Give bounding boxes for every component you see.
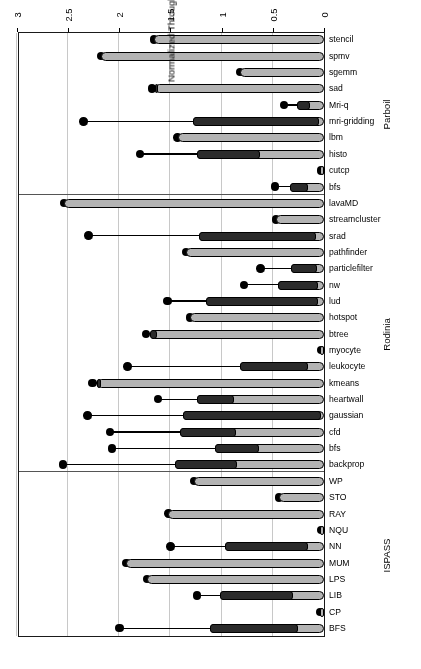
category-label-mum: MUM	[329, 556, 385, 572]
category-label-cp: CP	[329, 605, 385, 621]
axis-tick	[324, 28, 325, 32]
category-label-myocyte: myocyte	[329, 343, 385, 359]
bar-inner	[150, 330, 157, 339]
group-label-rodinia: Rodinia	[382, 305, 393, 365]
whisker-endpoint-dot	[154, 395, 163, 404]
category-label-streamcluster: streamcluster	[329, 213, 385, 229]
whisker-endpoint-dot	[79, 117, 88, 126]
axis-tick-label: 2	[115, 5, 125, 25]
bar-row	[19, 603, 324, 619]
category-label-lavamd: lavaMD	[329, 196, 385, 212]
bar-row	[19, 620, 324, 636]
bar-outer	[320, 166, 324, 175]
category-label-gaussian: gaussian	[329, 409, 385, 425]
category-label-stencil: stencil	[329, 33, 385, 49]
category-label-spmv: spmv	[329, 49, 385, 65]
bar-outer	[320, 526, 324, 535]
whisker-endpoint-dot	[106, 428, 115, 437]
axis-tick-label: 0	[320, 5, 330, 25]
axis-tick	[222, 28, 223, 32]
whisker-endpoint-dot	[136, 150, 145, 159]
bar-outer	[186, 248, 324, 257]
group-separator	[19, 194, 324, 195]
category-label-pathfinder: pathfinder	[329, 245, 385, 261]
category-label-sto: STO	[329, 491, 385, 507]
bar-row	[19, 473, 324, 489]
whisker-endpoint-dot	[83, 411, 92, 420]
bar-row	[19, 227, 324, 243]
bar-inner	[193, 117, 319, 126]
bar-row	[19, 325, 324, 341]
axis-tick	[119, 28, 120, 32]
whisker-endpoint-dot	[163, 297, 172, 306]
bar-outer	[97, 379, 324, 388]
bar-inner	[197, 395, 234, 404]
bar-inner	[215, 444, 259, 453]
bar-outer	[147, 575, 324, 584]
bar-row	[19, 571, 324, 587]
whisker-endpoint-dot	[142, 330, 151, 339]
bar-inner	[155, 84, 158, 93]
whisker-endpoint-dot	[271, 182, 280, 191]
category-label-lbm: lbm	[329, 131, 385, 147]
group-label-parboil: Parboil	[382, 84, 393, 144]
category-label-nqu: NQU	[329, 523, 385, 539]
category-label-bfs: BFS	[329, 621, 385, 637]
bar-outer	[154, 35, 324, 44]
bar-row	[19, 260, 324, 276]
whisker-endpoint-dot	[193, 591, 202, 600]
bar-row	[19, 129, 324, 145]
bar-outer	[320, 608, 324, 617]
bar-row	[19, 391, 324, 407]
bar-row	[19, 211, 324, 227]
bar-inner	[97, 379, 101, 388]
axis-tick-label: 2.5	[64, 5, 74, 25]
whisker-endpoint-dot	[88, 379, 97, 388]
bar-row	[19, 309, 324, 325]
axis-title: Normalized Throughput (Flits/cycle/node)	[166, 0, 177, 85]
bar-inner	[290, 183, 307, 192]
bar-outer	[127, 559, 325, 568]
bar-outer	[64, 199, 324, 208]
category-label-histo: histo	[329, 147, 385, 163]
bar-row	[19, 113, 324, 129]
axis-tick-label: 1	[218, 5, 228, 25]
category-label-leukocyte: leukocyte	[329, 360, 385, 376]
category-label-lud: lud	[329, 294, 385, 310]
category-label-bfs: bfs	[329, 180, 385, 196]
category-label-sgemm: sgemm	[329, 66, 385, 82]
group-label-ispass: ISPASS	[382, 526, 393, 586]
bar-outer	[240, 68, 324, 77]
category-label-cutcp: cutcp	[329, 164, 385, 180]
bar-row	[19, 587, 324, 603]
bar-row	[19, 407, 324, 423]
bar-inner	[210, 624, 298, 633]
bar-row	[19, 293, 324, 309]
bar-row	[19, 244, 324, 260]
bar-row	[19, 522, 324, 538]
bar-inner	[220, 591, 294, 600]
bar-row	[19, 195, 324, 211]
group-separator	[19, 472, 324, 473]
whisker-endpoint-dot	[256, 264, 265, 273]
gridline	[16, 33, 17, 636]
category-label-bfs: bfs	[329, 442, 385, 458]
axis-tick	[273, 28, 274, 32]
bar-row	[19, 440, 324, 456]
whisker-endpoint-dot	[240, 281, 249, 290]
bar-inner	[199, 232, 316, 241]
category-label-mri-q: Mri-q	[329, 98, 385, 114]
category-label-wp: WP	[329, 474, 385, 490]
bar-inner	[291, 264, 317, 273]
plot-area	[18, 32, 325, 637]
category-label-cfd: cfd	[329, 425, 385, 441]
bar-inner	[297, 101, 309, 110]
bar-row	[19, 456, 324, 472]
bar-inner	[240, 362, 308, 371]
bar-row	[19, 374, 324, 390]
category-label-backprop: backprop	[329, 458, 385, 474]
whisker-endpoint-dot	[123, 362, 132, 371]
category-label-particlefilter: particlefilter	[329, 262, 385, 278]
bar-row	[19, 342, 324, 358]
bar-inner	[175, 461, 237, 470]
